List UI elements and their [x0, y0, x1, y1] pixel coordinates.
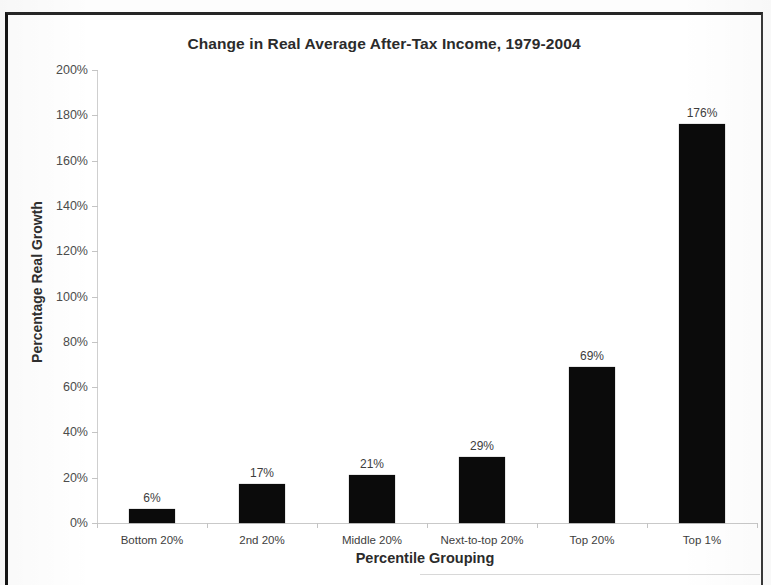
y-axis-tick [92, 70, 98, 71]
y-axis-tick-label: 160% [56, 154, 88, 168]
y-axis-tick-label: 180% [56, 108, 88, 122]
x-axis-tick [427, 523, 428, 528]
y-axis-tick [92, 115, 98, 116]
bar [349, 475, 395, 523]
plot-area: 200%180%160%140%120%100%80%60%40%20%0% 6… [97, 64, 757, 529]
bar-value-label: 21% [360, 457, 384, 471]
y-axis-tick-label: 80% [63, 335, 88, 349]
y-axis-tick [92, 206, 98, 207]
y-axis-tick [92, 478, 98, 479]
x-axis-tick [317, 523, 318, 528]
chart-title: Change in Real Average After-Tax Income,… [5, 35, 763, 53]
x-axis-tick [207, 523, 208, 528]
scanned-page: Change in Real Average After-Tax Income,… [0, 0, 771, 585]
bar-chart: Change in Real Average After-Tax Income,… [5, 12, 763, 585]
x-axis-tick [97, 523, 98, 528]
y-axis-tick [92, 251, 98, 252]
bar [129, 509, 175, 523]
y-axis-tick-label: 20% [63, 471, 88, 485]
x-axis-category-label: 2nd 20% [239, 534, 284, 546]
y-axis-tick [92, 432, 98, 433]
y-axis-tick [92, 342, 98, 343]
x-axis-tick [757, 523, 758, 528]
bar-value-label: 6% [143, 491, 160, 505]
bar [239, 484, 285, 523]
y-axis-tick-label: 100% [56, 290, 88, 304]
x-axis-category-label: Top 20% [570, 534, 615, 546]
x-axis-tick [537, 523, 538, 528]
y-axis-tick [92, 161, 98, 162]
bar-value-label: 69% [580, 349, 604, 363]
x-axis-category-label: Bottom 20% [121, 534, 184, 546]
y-axis-tick-label: 0% [70, 516, 88, 530]
y-axis-tick-label: 200% [56, 63, 88, 77]
bar [459, 457, 505, 523]
x-axis-category-label: Top 1% [683, 534, 721, 546]
x-axis-tick [647, 523, 648, 528]
x-axis-category-label: Next-to-top 20% [440, 534, 523, 546]
y-axis-tick [92, 387, 98, 388]
y-axis-tick-label: 60% [63, 380, 88, 394]
scan-artifact-line [420, 574, 760, 575]
y-axis-tick [92, 297, 98, 298]
y-axis-tick-label: 40% [63, 425, 88, 439]
y-axis-tick-label: 140% [56, 199, 88, 213]
y-axis-tick-label: 120% [56, 244, 88, 258]
bar [679, 124, 725, 523]
bar-value-label: 29% [470, 439, 494, 453]
bar-value-label: 176% [687, 106, 718, 120]
y-axis-title: Percentage Real Growth [29, 162, 45, 402]
x-axis-category-label: Middle 20% [342, 534, 402, 546]
x-axis-title: Percentile Grouping [95, 550, 755, 566]
bar [569, 367, 615, 523]
bar-value-label: 17% [250, 466, 274, 480]
